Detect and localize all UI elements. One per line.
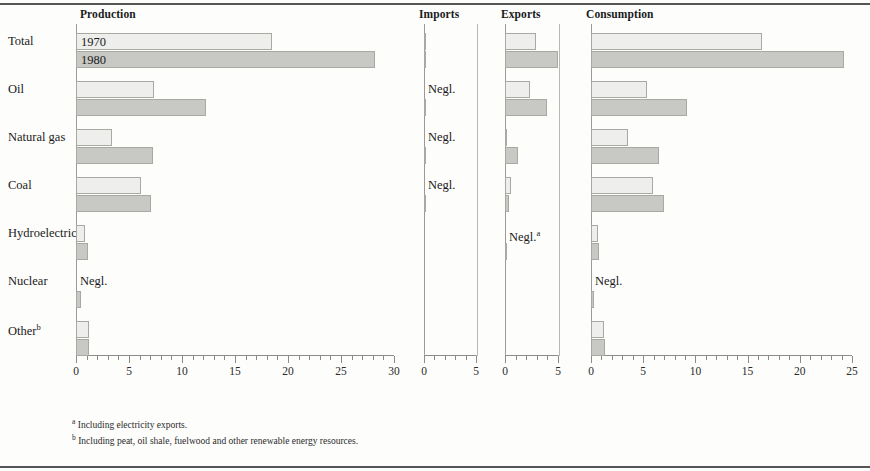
major-tick xyxy=(76,356,77,363)
x-tick-label: 25 xyxy=(846,365,858,377)
minor-tick xyxy=(267,356,268,360)
x-tick-label: 0 xyxy=(421,365,427,377)
minor-tick xyxy=(821,356,822,360)
minor-tick xyxy=(737,356,738,360)
major-tick xyxy=(748,356,749,363)
major-tick xyxy=(476,356,477,363)
major-tick xyxy=(424,356,425,363)
minor-tick xyxy=(171,356,172,360)
minor-tick xyxy=(161,356,162,360)
negligible-label-imports-coal: Negl. xyxy=(428,177,455,194)
footnote-b-marker: b xyxy=(72,433,76,442)
bar-imports-oil-1980 xyxy=(424,99,426,116)
minor-tick xyxy=(537,356,538,360)
panel-imports: 05Negl.Negl.Negl. xyxy=(424,24,476,376)
minor-tick xyxy=(727,356,728,360)
minor-tick xyxy=(246,356,247,360)
category-label-other: Otherb xyxy=(8,322,41,339)
figure-sheet: TotalOilNatural gasCoalHydroelectricNucl… xyxy=(0,0,870,471)
minor-tick xyxy=(108,356,109,360)
bar-production-total-1980: 1980 xyxy=(76,51,375,68)
minor-tick xyxy=(622,356,623,360)
minor-tick xyxy=(434,356,435,360)
panel-frame-exports xyxy=(505,24,560,356)
minor-tick xyxy=(362,356,363,360)
bar-production-other-1970 xyxy=(76,321,89,338)
x-tick-label: 0 xyxy=(588,365,594,377)
bar-consumption-nuclear-1980 xyxy=(591,291,594,308)
x-tick-label: 0 xyxy=(502,365,508,377)
minor-tick xyxy=(547,356,548,360)
footnote-b-text: Including peat, oil shale, fuelwood and … xyxy=(78,436,358,446)
minor-tick xyxy=(716,356,717,360)
bar-exports-coal-1980 xyxy=(505,195,509,212)
category-label-natural-gas: Natural gas xyxy=(8,130,65,145)
major-tick xyxy=(341,356,342,363)
minor-tick xyxy=(466,356,467,360)
panel-exports: 05Negl.a xyxy=(505,24,558,376)
bar-production-natural-gas-1980 xyxy=(76,147,153,164)
category-label-hydroelectric: Hydroelectric xyxy=(8,226,77,241)
minor-tick xyxy=(330,356,331,360)
bar-consumption-natural-gas-1970 xyxy=(591,129,628,146)
bar-production-total-1970: 1970 xyxy=(76,33,272,50)
minor-tick xyxy=(706,356,707,360)
minor-tick xyxy=(810,356,811,360)
bar-exports-coal-1970 xyxy=(505,177,511,194)
baseline-imports xyxy=(424,24,425,354)
bottom-rule xyxy=(0,466,870,468)
minor-tick xyxy=(203,356,204,360)
minor-tick xyxy=(277,356,278,360)
bar-consumption-total-1970 xyxy=(591,33,762,50)
bar-exports-hydroelectric-1980 xyxy=(505,243,507,260)
bar-exports-total-1970 xyxy=(505,33,536,50)
bar-production-oil-1970 xyxy=(76,81,154,98)
minor-tick xyxy=(224,356,225,360)
x-tick-label: 15 xyxy=(742,365,754,377)
bar-exports-total-1980 xyxy=(505,51,558,68)
minor-tick xyxy=(601,356,602,360)
minor-tick xyxy=(193,356,194,360)
negligible-text: Negl. xyxy=(509,230,536,244)
footnote-a-marker: a xyxy=(72,417,75,426)
bar-consumption-total-1980 xyxy=(591,51,844,68)
x-tick-label: 15 xyxy=(229,365,241,377)
bar-exports-oil-1980 xyxy=(505,99,547,116)
minor-tick xyxy=(97,356,98,360)
footnote-a-text: Including electricity exports. xyxy=(78,420,187,430)
x-tick-label: 25 xyxy=(335,365,347,377)
negligible-label-imports-natural-gas: Negl. xyxy=(428,129,455,146)
major-tick xyxy=(558,356,559,363)
minor-tick xyxy=(309,356,310,360)
major-tick xyxy=(235,356,236,363)
x-tick-label: 10 xyxy=(176,365,188,377)
x-tick-label: 20 xyxy=(794,365,806,377)
minor-tick xyxy=(320,356,321,360)
panel-title-exports: Exports xyxy=(501,8,541,20)
bar-consumption-coal-1980 xyxy=(591,195,664,212)
major-tick xyxy=(852,356,853,363)
panel-consumption: 0510152025Negl. xyxy=(591,24,852,376)
minor-tick xyxy=(445,356,446,360)
major-tick xyxy=(800,356,801,363)
bar-production-natural-gas-1970 xyxy=(76,129,112,146)
x-axis-imports xyxy=(424,355,476,356)
footnote-a: a Including electricity exports. xyxy=(72,416,358,432)
major-tick xyxy=(182,356,183,363)
major-tick xyxy=(129,356,130,363)
minor-tick xyxy=(214,356,215,360)
footnote-ref-b: b xyxy=(36,322,40,332)
minor-tick xyxy=(526,356,527,360)
minor-tick xyxy=(633,356,634,360)
minor-tick xyxy=(150,356,151,360)
bar-consumption-oil-1970 xyxy=(591,81,647,98)
negligible-label-consumption-nuclear: Negl. xyxy=(595,273,622,290)
series-legend-1980: 1980 xyxy=(81,52,106,69)
series-legend-1970: 1970 xyxy=(81,34,106,51)
category-label-oil: Oil xyxy=(8,82,24,97)
bar-consumption-other-1970 xyxy=(591,321,604,338)
minor-tick xyxy=(383,356,384,360)
minor-tick xyxy=(768,356,769,360)
minor-tick xyxy=(299,356,300,360)
bar-production-oil-1980 xyxy=(76,99,206,116)
